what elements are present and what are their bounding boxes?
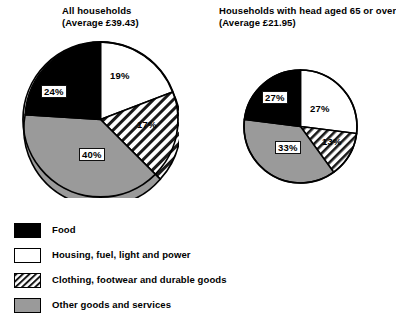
pie-right-slice-housing <box>301 70 358 134</box>
legend-item-other: Other goods and services <box>14 297 274 313</box>
chart-legend: Food Housing, fuel, light and power Clot… <box>14 222 274 322</box>
legend-label-other: Other goods and services <box>52 299 171 311</box>
solid-grey-swatch-icon <box>14 298 41 313</box>
pie-right-label-other: 33% <box>275 141 301 154</box>
legend-item-food: Food <box>14 222 274 238</box>
legend-label-clothing: Clothing, footwear and durable goods <box>52 274 227 286</box>
pie-left-label-housing: 19% <box>110 70 130 81</box>
chart-title-right-line2: (Average £21.95) <box>219 17 396 29</box>
pie-left-label-food: 24% <box>41 85 67 98</box>
pie-right-label-food: 27% <box>262 91 288 104</box>
pie-right-label-clothing: 13% <box>322 136 342 147</box>
pie-left-slice-food <box>25 42 100 120</box>
diagonal-hatch-swatch-icon <box>14 273 41 288</box>
legend-label-food: Food <box>52 224 76 236</box>
pie-left-label-clothing: 17% <box>137 119 157 130</box>
legend-label-housing: Housing, fuel, light and power <box>52 249 191 261</box>
pie-right-svg <box>243 69 358 184</box>
pie-left-label-other: 40% <box>79 148 105 161</box>
legend-item-housing: Housing, fuel, light and power <box>14 247 274 263</box>
solid-white-swatch-icon <box>14 248 41 263</box>
chart-title-right: Households with head aged 65 or over (Av… <box>219 5 396 29</box>
chart-title-left-line2: (Average £39.43) <box>62 17 139 29</box>
pie-right-label-housing: 27% <box>310 103 330 114</box>
chart-title-left: All households (Average £39.43) <box>62 5 139 29</box>
chart-title-left-line1: All households <box>62 5 139 17</box>
pie-chart-head-aged-65-or-over <box>243 69 358 184</box>
solid-black-swatch-icon <box>14 223 41 238</box>
legend-item-clothing: Clothing, footwear and durable goods <box>14 272 274 288</box>
chart-title-right-line1: Households with head aged 65 or over <box>219 5 396 17</box>
